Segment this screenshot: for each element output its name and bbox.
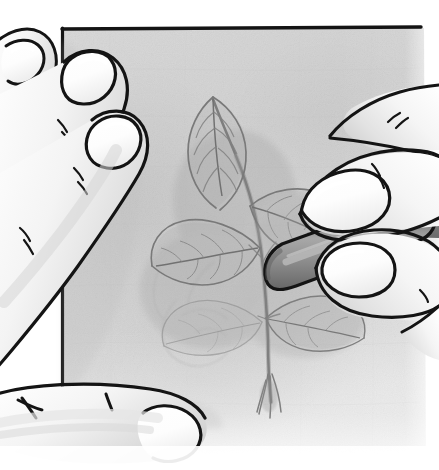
bottom-fade xyxy=(0,446,439,470)
illustration-canvas: Hands sketching a leaf with a pencil Two… xyxy=(0,0,439,470)
illustration-svg xyxy=(0,0,439,470)
paper-top-edge xyxy=(62,27,421,29)
